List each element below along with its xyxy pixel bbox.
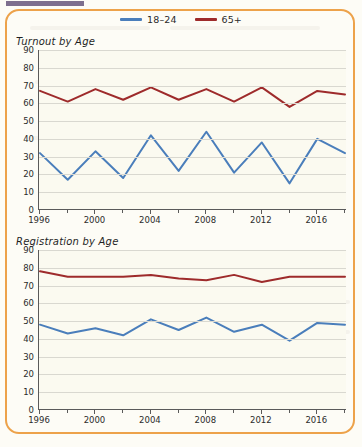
gridline [39, 357, 346, 358]
y-tick-label: 0 [29, 205, 34, 215]
y-tick-label: 20 [23, 169, 34, 179]
y-tick-label: 50 [23, 116, 34, 126]
x-tick-label: 2016 [305, 415, 327, 425]
gridline [39, 139, 346, 140]
x-tick-label: 2008 [195, 415, 217, 425]
chart-legend: 18–24 65+ [0, 14, 362, 25]
x-tick-minor [39, 210, 40, 213]
legend-entry-65-plus: 65+ [195, 14, 242, 25]
plot-area-registration [38, 250, 346, 410]
x-axis-registration: 199620002004200820122016 [38, 410, 346, 428]
gridline [39, 268, 346, 269]
series-line-65- [40, 271, 345, 282]
gridline [39, 374, 346, 375]
series-lines-registration [39, 250, 346, 409]
y-tick-label: 50 [23, 316, 34, 326]
y-tick-label: 70 [23, 281, 34, 291]
y-tick-label: 60 [23, 298, 34, 308]
x-tick-minor [289, 410, 290, 413]
gridline [39, 157, 346, 158]
y-tick-label: 30 [23, 152, 34, 162]
x-tick-minor [205, 410, 206, 413]
x-tick-label: 2012 [250, 215, 272, 225]
x-tick-minor [261, 210, 262, 213]
chart-panel-registration: Registration by Age 0102030405060708090 … [14, 236, 346, 428]
x-tick-label: 1996 [28, 415, 50, 425]
gridline [39, 192, 346, 193]
gridline [39, 303, 346, 304]
y-axis-turnout: 0102030405060708090 [14, 50, 34, 210]
series-lines-turnout [39, 50, 346, 209]
y-tick-label: 20 [23, 369, 34, 379]
gridline [39, 103, 346, 104]
x-tick-minor [122, 210, 123, 213]
x-tick-minor [261, 410, 262, 413]
gridline [39, 286, 346, 287]
legend-label-18-24: 18–24 [147, 14, 176, 25]
y-tick-label: 60 [23, 98, 34, 108]
x-tick-minor [122, 410, 123, 413]
x-tick-minor [178, 410, 179, 413]
x-tick-label: 2012 [250, 415, 272, 425]
y-tick-label: 40 [23, 134, 34, 144]
x-tick-label: 2004 [139, 215, 161, 225]
x-tick-label: 2008 [195, 215, 217, 225]
x-tick-label: 2000 [84, 415, 106, 425]
x-tick-minor [344, 210, 345, 213]
x-axis-turnout: 199620002004200820122016 [38, 210, 346, 228]
x-tick-minor [94, 410, 95, 413]
chart-title-turnout: Turnout by Age [16, 36, 346, 47]
y-tick-label: 80 [23, 263, 34, 273]
x-tick-minor [316, 210, 317, 213]
y-tick-label: 0 [29, 405, 34, 415]
x-tick-minor [150, 210, 151, 213]
x-tick-minor [150, 410, 151, 413]
gridline [39, 68, 346, 69]
legend-entry-18-24: 18–24 [120, 14, 176, 25]
x-tick-minor [67, 210, 68, 213]
plot-area-turnout [38, 50, 346, 210]
x-tick-minor [178, 210, 179, 213]
x-tick-label: 2004 [139, 415, 161, 425]
x-tick-minor [233, 210, 234, 213]
gridline [39, 392, 346, 393]
x-tick-minor [67, 410, 68, 413]
x-tick-minor [344, 410, 345, 413]
x-tick-minor [289, 210, 290, 213]
y-tick-label: 90 [23, 245, 34, 255]
y-tick-label: 10 [23, 387, 34, 397]
y-tick-label: 80 [23, 63, 34, 73]
x-tick-label: 1996 [28, 215, 50, 225]
x-tick-minor [205, 210, 206, 213]
y-tick-label: 30 [23, 352, 34, 362]
legend-label-65-plus: 65+ [222, 14, 242, 25]
gridline [39, 250, 346, 251]
x-tick-minor [94, 210, 95, 213]
gridline [39, 339, 346, 340]
y-tick-label: 10 [23, 187, 34, 197]
x-tick-label: 2000 [84, 215, 106, 225]
gridline [39, 86, 346, 87]
gridline [39, 50, 346, 51]
page-top-rule [6, 1, 84, 6]
y-tick-label: 90 [23, 45, 34, 55]
x-tick-label: 2016 [305, 215, 327, 225]
gridline [39, 174, 346, 175]
legend-swatch-65-plus [195, 18, 217, 22]
gridline [39, 321, 346, 322]
x-tick-minor [316, 410, 317, 413]
chart-title-registration: Registration by Age [16, 236, 346, 247]
gridline [39, 121, 346, 122]
y-tick-label: 70 [23, 81, 34, 91]
x-tick-minor [233, 410, 234, 413]
y-tick-label: 40 [23, 334, 34, 344]
chart-panel-turnout: Turnout by Age 0102030405060708090 19962… [14, 36, 346, 228]
legend-swatch-18-24 [120, 18, 142, 22]
y-axis-registration: 0102030405060708090 [14, 250, 34, 410]
x-tick-minor [39, 410, 40, 413]
